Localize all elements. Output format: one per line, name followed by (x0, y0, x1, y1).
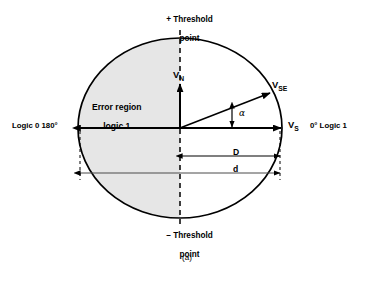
logic-zero-label: Logic 0 180° (12, 122, 58, 131)
vse-vector-label: VSE (272, 80, 287, 92)
error-region-line1: Error region (92, 102, 142, 112)
vs-vector-label: VS (288, 120, 299, 132)
plus-threshold-line1: + Threshold (166, 15, 213, 24)
logic-one-label: 0° Logic 1 (310, 122, 347, 131)
figure-container: + Threshold point – Threshold point Erro… (0, 0, 373, 281)
vn-subscript: N (179, 75, 184, 82)
vector-vse-arrow (180, 93, 270, 128)
figure-caption: (a) (156, 254, 218, 263)
plus-threshold-label: + Threshold point (134, 6, 236, 52)
error-region-line2: logic 1 (103, 121, 130, 131)
plus-threshold-line2: point (180, 34, 200, 43)
vn-vector-label: VN (173, 70, 184, 82)
minus-threshold-line1: – Threshold (166, 231, 212, 240)
vs-subscript: S (294, 125, 299, 132)
dimension-d-label: d (233, 165, 238, 175)
vse-subscript: SE (278, 85, 287, 92)
dimension-D-label: D (233, 148, 239, 158)
error-region-label: Error region logic 1 (64, 93, 160, 141)
alpha-angle-label: α (239, 108, 245, 118)
